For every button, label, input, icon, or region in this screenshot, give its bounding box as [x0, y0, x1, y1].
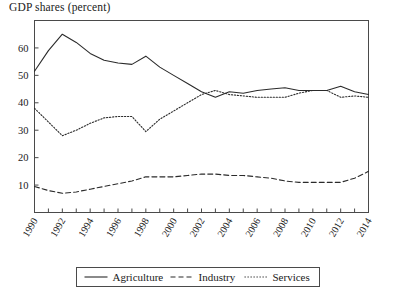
y-axis-ticks: 102030405060 — [18, 43, 39, 191]
chart-page: GDP shares (percent) 102030405060 199019… — [0, 0, 395, 298]
gdp-shares-line-chart: 102030405060 199019921994199619982000200… — [0, 0, 395, 298]
x-tick-label: 2012 — [326, 216, 346, 239]
x-tick-label: 2014 — [354, 216, 374, 239]
x-tick-label: 2008 — [271, 216, 291, 239]
x-axis-ticks: 1990199219941996199820002002200420062008… — [20, 209, 374, 239]
series-line-industry — [35, 171, 369, 193]
x-tick-label: 1998 — [132, 216, 152, 239]
x-tick-label: 1990 — [20, 216, 40, 239]
legend-label-agriculture: Agriculture — [113, 271, 164, 283]
x-tick-label: 1992 — [48, 216, 68, 239]
x-tick-label: 2000 — [159, 216, 179, 239]
legend-label-industry: Industry — [199, 271, 236, 283]
chart-legend: AgricultureIndustryServices — [77, 268, 320, 287]
y-tick-label: 10 — [18, 180, 29, 191]
x-tick-label: 2010 — [299, 216, 319, 239]
x-tick-label: 1996 — [104, 216, 124, 239]
y-tick-label: 60 — [18, 43, 29, 54]
y-tick-label: 20 — [18, 152, 29, 163]
x-tick-label: 1994 — [76, 216, 96, 239]
legend-label-services: Services — [273, 271, 310, 283]
y-tick-label: 40 — [18, 97, 29, 108]
y-tick-label: 30 — [18, 125, 29, 136]
y-tick-label: 50 — [18, 70, 29, 81]
x-tick-label: 2002 — [187, 216, 207, 239]
x-tick-label: 2004 — [215, 216, 235, 239]
series-line-services — [35, 90, 369, 135]
x-tick-label: 2006 — [243, 216, 263, 239]
series-line-agriculture — [35, 34, 369, 97]
chart-series — [35, 34, 369, 193]
